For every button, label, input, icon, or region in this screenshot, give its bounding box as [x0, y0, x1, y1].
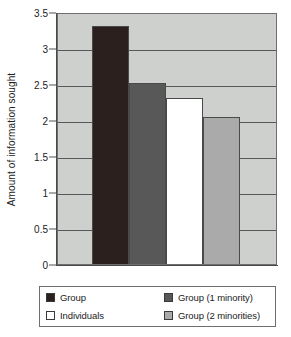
- bar: [129, 83, 166, 264]
- y-tick-label: 2: [42, 116, 48, 127]
- y-tick-label: 3.5: [34, 8, 48, 19]
- legend-item-group-1-minority: Group (1 minority): [164, 292, 282, 303]
- legend-swatch-group-1-minority: [164, 293, 173, 302]
- y-tick-label: 0.5: [34, 224, 48, 235]
- legend-item-individuals: Individuals: [46, 310, 164, 321]
- legend-swatch-individuals: [46, 311, 55, 320]
- y-tick-mark: [49, 121, 56, 122]
- legend-swatch-group: [46, 293, 55, 302]
- bar: [166, 98, 203, 264]
- y-tick-mark: [49, 157, 56, 158]
- chart-legend: Group Group (1 minority) Individuals Gro…: [39, 286, 276, 327]
- gridline: [58, 86, 276, 87]
- y-axis-label-container: Amount of information sought: [2, 13, 22, 265]
- bar-chart-figure: Amount of information sought 00.511.522.…: [0, 0, 291, 337]
- y-tick-label: 2.5: [34, 80, 48, 91]
- legend-item-group: Group: [46, 292, 164, 303]
- legend-swatch-group-2-minorities: [164, 311, 173, 320]
- legend-label-group-2-minorities: Group (2 minorities): [178, 310, 260, 321]
- x-axis-spine: [56, 265, 278, 266]
- y-tick-mark: [49, 193, 56, 194]
- legend-label-group: Group: [60, 292, 86, 303]
- bar: [92, 26, 129, 264]
- y-tick-label: 0: [42, 260, 48, 271]
- gridline: [58, 50, 276, 51]
- legend-label-group-1-minority: Group (1 minority): [178, 292, 253, 303]
- y-tick-mark: [49, 85, 56, 86]
- y-tick-mark: [49, 13, 56, 14]
- y-axis-tick-labels: 00.511.522.533.5: [22, 13, 48, 265]
- y-tick-label: 1: [42, 188, 48, 199]
- plot-inner: [58, 14, 276, 264]
- y-tick-mark: [49, 49, 56, 50]
- bar: [203, 117, 240, 264]
- y-axis-label: Amount of information sought: [7, 72, 18, 205]
- plot-area: [57, 13, 277, 265]
- y-tick-label: 3: [42, 44, 48, 55]
- y-tick-mark: [49, 265, 56, 266]
- legend-label-individuals: Individuals: [60, 310, 104, 321]
- y-tick-mark: [49, 229, 56, 230]
- legend-item-group-2-minorities: Group (2 minorities): [164, 310, 282, 321]
- y-tick-label: 1.5: [34, 152, 48, 163]
